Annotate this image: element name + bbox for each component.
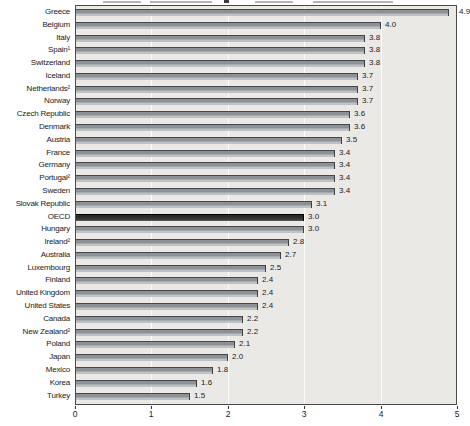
bar-new-zealand — [76, 329, 243, 336]
category-label-iceland: Iceland — [0, 71, 70, 81]
category-label-ireland: Ireland² — [0, 237, 70, 247]
bar-italy — [76, 35, 365, 42]
value-label-turkey: 1.5 — [194, 391, 205, 401]
category-label-mexico: Mexico — [0, 365, 70, 375]
value-label-spain: 3.8 — [369, 45, 380, 55]
bar-united-states — [76, 303, 258, 310]
bar-australia — [76, 252, 281, 259]
bar-france — [76, 150, 335, 157]
value-label-canada: 2.2 — [247, 314, 258, 324]
value-label-france: 3.4 — [339, 148, 350, 158]
x-tick-label-3: 3 — [294, 409, 314, 420]
category-label-korea: Korea — [0, 378, 70, 388]
category-label-australia: Australia — [0, 250, 70, 260]
value-label-czech-republic: 3.6 — [354, 109, 365, 119]
bar-japan — [76, 354, 228, 361]
value-label-switzerland: 3.8 — [369, 58, 380, 68]
value-label-netherlands: 3.7 — [362, 84, 373, 94]
bar-mexico — [76, 367, 213, 374]
x-tick-label-2: 2 — [218, 409, 238, 420]
value-label-poland: 2.1 — [239, 339, 250, 349]
bar-denmark — [76, 124, 350, 131]
cropped-title-descender — [224, 0, 229, 3]
cropped-title-mark — [255, 1, 293, 3]
value-label-slovak-republic: 3.1 — [316, 199, 327, 209]
cropped-title-mark — [313, 1, 393, 3]
bar-canada — [76, 316, 243, 323]
bar-hungary — [76, 226, 304, 233]
x-tick-label-5: 5 — [447, 409, 467, 420]
value-label-new-zealand: 2.2 — [247, 327, 258, 337]
value-label-united-kingdom: 2.4 — [262, 288, 273, 298]
category-label-slovak-republic: Slovak Republic — [0, 199, 70, 209]
bar-czech-republic — [76, 111, 350, 118]
bar-spain — [76, 47, 365, 54]
bar-switzerland — [76, 60, 365, 67]
category-label-netherlands: Netherlands² — [0, 84, 70, 94]
category-label-austria: Austria — [0, 135, 70, 145]
cropped-title-mark — [103, 1, 141, 3]
bar-austria — [76, 137, 342, 144]
category-label-italy: Italy — [0, 33, 70, 43]
value-label-mexico: 1.8 — [217, 365, 228, 375]
value-label-belgium: 4.0 — [385, 20, 396, 30]
value-label-korea: 1.6 — [201, 378, 212, 388]
category-label-united-states: United States — [0, 301, 70, 311]
bar-belgium — [76, 22, 381, 29]
bar-greece — [76, 9, 449, 16]
bar-finland — [76, 277, 258, 284]
category-label-belgium: Belgium — [0, 20, 70, 30]
bar-slovak-republic — [76, 201, 312, 208]
category-label-new-zealand: New Zealand² — [0, 327, 70, 337]
value-label-australia: 2.7 — [285, 250, 296, 260]
value-label-norway: 3.7 — [362, 96, 373, 106]
gridline-x-4 — [381, 6, 382, 404]
value-label-portugal: 3.4 — [339, 173, 350, 183]
value-label-united-states: 2.4 — [262, 301, 273, 311]
value-label-italy: 3.8 — [369, 33, 380, 43]
value-label-finland: 2.4 — [262, 275, 273, 285]
bar-korea — [76, 380, 197, 387]
category-label-france: France — [0, 148, 70, 158]
category-label-united-kingdom: United Kingdom — [0, 288, 70, 298]
value-label-japan: 2.0 — [232, 352, 243, 362]
category-label-turkey: Turkey — [0, 391, 70, 401]
bar-chart: Greece4.9Belgium4.0Italy3.8Spain¹3.8Swit… — [0, 0, 470, 426]
value-label-iceland: 3.7 — [362, 71, 373, 81]
cropped-title-mark — [150, 1, 212, 3]
category-label-sweden: Sweden — [0, 186, 70, 196]
category-label-finland: Finland — [0, 275, 70, 285]
category-label-norway: Norway — [0, 96, 70, 106]
x-tick-label-4: 4 — [371, 409, 391, 420]
bar-luxembourg — [76, 265, 266, 272]
bar-united-kingdom — [76, 290, 258, 297]
category-label-czech-republic: Czech Republic — [0, 109, 70, 119]
category-label-spain: Spain¹ — [0, 45, 70, 55]
bar-sweden — [76, 188, 335, 195]
bar-iceland — [76, 73, 358, 80]
category-label-germany: Germany — [0, 160, 70, 170]
bar-netherlands — [76, 86, 358, 93]
category-label-luxembourg: Luxembourg — [0, 263, 70, 273]
bar-norway — [76, 98, 358, 105]
category-label-japan: Japan — [0, 352, 70, 362]
bar-portugal — [76, 175, 335, 182]
category-label-canada: Canada — [0, 314, 70, 324]
category-label-greece: Greece — [0, 7, 70, 17]
category-label-hungary: Hungary — [0, 224, 70, 234]
value-label-hungary: 3.0 — [308, 224, 319, 234]
category-label-switzerland: Switzerland — [0, 58, 70, 68]
value-label-germany: 3.4 — [339, 160, 350, 170]
value-label-oecd: 3.0 — [308, 212, 319, 222]
bar-turkey — [76, 393, 190, 400]
bar-poland — [76, 341, 235, 348]
value-label-greece: 4.9 — [459, 7, 470, 17]
value-label-luxembourg: 2.5 — [270, 263, 281, 273]
bar-ireland — [76, 239, 289, 246]
bar-germany — [76, 162, 335, 169]
category-label-denmark: Denmark — [0, 122, 70, 132]
x-tick-label-1: 1 — [141, 409, 161, 420]
value-label-sweden: 3.4 — [339, 186, 350, 196]
value-label-austria: 3.5 — [346, 135, 357, 145]
highlight-bar-oecd — [76, 214, 304, 221]
